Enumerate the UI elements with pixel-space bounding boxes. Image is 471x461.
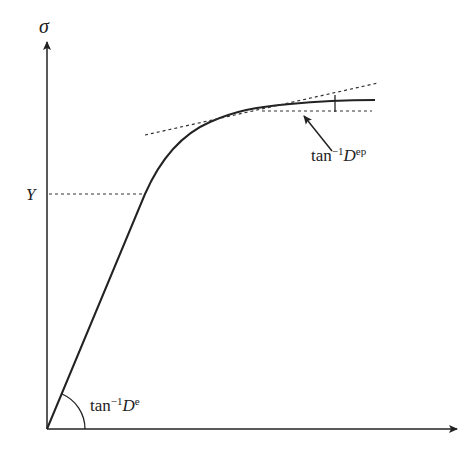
yield-stress-label: Y (26, 186, 35, 203)
elastoplastic-slope-label: tan−1Dep (311, 146, 366, 164)
elastic-slope-symbol: D (123, 396, 135, 415)
stress-strain-diagram: σ Y tan−1De tan−1Dep (0, 0, 471, 461)
elastic-slope-label: tan−1De (90, 396, 140, 414)
elastoplastic-slope-exponent: −1 (332, 145, 344, 157)
elastoplastic-slope-superscript: ep (356, 145, 366, 157)
elastic-slope-exponent: −1 (111, 395, 123, 407)
elastoplastic-slope-symbol: D (344, 146, 356, 165)
elastic-slope-prefix: tan (90, 396, 111, 415)
elastic-slope-superscript: e (135, 395, 140, 407)
y-axis-label-sigma: σ (39, 16, 49, 36)
diagram-canvas (0, 0, 471, 461)
elastoplastic-slope-prefix: tan (311, 146, 332, 165)
elastic-angle-arc (62, 394, 85, 429)
tangent-dashed-line (145, 83, 378, 135)
